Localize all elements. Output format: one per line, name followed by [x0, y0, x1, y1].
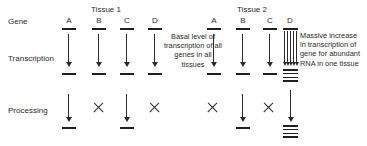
transcription-arrowhead-t1-b: [96, 62, 102, 67]
processing-blocked-x-t2-c: [262, 100, 275, 113]
transcription-arrowhead-bundle-t2-d-5: [295, 62, 299, 66]
transcription-arrow-t1-d: [154, 34, 155, 63]
tissue-title-2: Tissue 2: [222, 5, 282, 14]
transcription-arrowhead-t1-d: [152, 62, 158, 67]
gene-letter-t1-b: B: [92, 16, 106, 25]
transcription-arrowhead-t2-a: [211, 62, 217, 67]
row-label-transcription: Transcription: [8, 54, 54, 63]
transcript-bar-t1-d: [148, 73, 162, 75]
transcription-arrow-t1-c: [126, 34, 127, 63]
product-bar-t1-c: [120, 127, 134, 129]
transcription-arrowhead-t2-b: [240, 62, 246, 67]
gene-bar-t2-c: [263, 28, 277, 30]
annotation-massive-increase: Massive increase in transcription of gen…: [300, 31, 364, 68]
transcription-arrow-t1-a: [68, 34, 69, 63]
transcription-arrow-bundle-t2-d-1: [284, 31, 285, 63]
gene-bar-t2-b: [236, 28, 250, 30]
gene-bar-t2-d: [283, 28, 298, 30]
processing-arrow-t1-a: [68, 94, 69, 118]
gene-letter-t1-d: D: [148, 16, 162, 25]
product-bar-t2-b: [236, 127, 250, 129]
transcription-arrow-bundle-t2-d-5: [296, 31, 297, 63]
gene-letter-t1-a: A: [62, 16, 76, 25]
transcription-arrow-t2-a: [213, 34, 214, 63]
transcript-bar-t1-c: [120, 73, 134, 75]
transcription-arrowhead-t2-c: [267, 62, 273, 67]
processing-arrowhead-t2-d: [288, 117, 294, 122]
transcription-arrowhead-t1-a: [66, 62, 72, 67]
transcription-arrow-bundle-t2-d-3: [290, 31, 291, 63]
gene-bar-t2-a: [207, 28, 221, 30]
transcription-arrow-t2-b: [242, 34, 243, 63]
gene-letter-t2-d: D: [283, 16, 297, 25]
transcription-arrow-t2-c: [269, 34, 270, 63]
transcript-bar-t1-a: [62, 73, 76, 75]
transcript-bar-t2-a: [207, 73, 221, 75]
product-bar-t1-a: [62, 127, 76, 129]
gene-letter-t2-a: A: [207, 16, 221, 25]
processing-arrowhead-t2-b: [240, 117, 246, 122]
transcription-arrow-t1-b: [98, 34, 99, 63]
transcript-bar-t2-c: [263, 73, 277, 75]
processing-arrow-t1-c: [126, 94, 127, 118]
processing-blocked-x-t1-b: [92, 100, 105, 113]
processing-blocked-x-t1-d: [148, 100, 161, 113]
transcription-arrowhead-t1-c: [124, 62, 130, 67]
gene-letter-t2-c: C: [263, 16, 277, 25]
processing-blocked-x-t2-a: [206, 100, 219, 113]
transcript-bar-t2-b: [236, 73, 250, 75]
gene-bar-t1-d: [148, 28, 162, 30]
gene-letter-t2-b: B: [236, 16, 250, 25]
gene-bar-t1-b: [92, 28, 106, 30]
tissue-title-1: Tissue 1: [76, 5, 136, 14]
processing-arrowhead-t1-a: [66, 117, 72, 122]
gene-letter-t1-c: C: [120, 16, 134, 25]
transcription-arrow-bundle-t2-d-4: [293, 31, 294, 63]
gene-bar-t1-c: [120, 28, 134, 30]
product-rna-stack-t2-d: [283, 125, 298, 138]
transcription-arrow-bundle-t2-d-2: [287, 31, 288, 63]
row-label-gene: Gene: [8, 17, 28, 26]
processing-arrowhead-t1-c: [124, 117, 130, 122]
gene-bar-t1-a: [62, 28, 76, 30]
row-label-processing: Processing: [8, 106, 48, 115]
diagram-canvas: Gene Transcription Processing Tissue 1 A…: [0, 0, 367, 146]
transcript-rna-stack-t2-d: [283, 69, 298, 82]
transcript-bar-t1-b: [92, 73, 106, 75]
processing-arrow-t2-b: [242, 94, 243, 118]
processing-arrow-t2-d: [290, 90, 291, 118]
